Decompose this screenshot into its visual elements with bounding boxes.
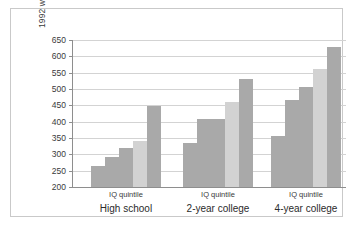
- y-tick-mark: [69, 187, 73, 188]
- bar-group-2: [183, 40, 253, 187]
- bar-group-1: [91, 40, 161, 187]
- y-tick-label: 550: [52, 68, 66, 77]
- y-tick-label: 200: [52, 183, 66, 192]
- y-tick-label: 650: [52, 36, 66, 45]
- y-tick-label: 300: [52, 150, 66, 159]
- bar: [327, 47, 341, 187]
- bar: [147, 106, 161, 187]
- group-axis-label: IQ quintile: [178, 190, 258, 199]
- bar-group-3: [271, 40, 341, 187]
- y-tick-label: 500: [52, 85, 66, 94]
- x-axis-line: [72, 187, 346, 188]
- bar-groups: [73, 40, 346, 187]
- bar: [239, 79, 253, 187]
- y-tick-label: 350: [52, 134, 66, 143]
- bar: [225, 102, 239, 187]
- bar: [119, 148, 133, 187]
- group-axis-label: IQ quintile: [86, 190, 166, 199]
- chart-frame: 1992 weekly wages 2002503003504004505005…: [10, 8, 343, 217]
- bar: [271, 136, 285, 187]
- bar: [211, 119, 225, 187]
- y-axis-title: 1992 weekly wages: [36, 0, 48, 55]
- bar: [285, 100, 299, 187]
- bar: [133, 141, 147, 187]
- bar: [197, 119, 211, 187]
- bar: [183, 143, 197, 187]
- bar: [105, 157, 119, 187]
- group-category-label: 4-year college: [251, 203, 355, 214]
- bar: [91, 166, 105, 187]
- y-tick-label: 600: [52, 52, 66, 61]
- y-tick-label: 250: [52, 166, 66, 175]
- y-tick-label: 450: [52, 101, 66, 110]
- group-axis-label: IQ quintile: [266, 190, 346, 199]
- plot-area: 200250300350400450500550600650: [73, 40, 346, 187]
- bar: [313, 69, 327, 187]
- y-tick-label: 400: [52, 117, 66, 126]
- bar: [299, 87, 313, 187]
